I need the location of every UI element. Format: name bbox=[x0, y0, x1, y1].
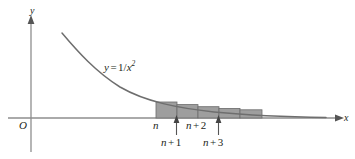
tick-label-n-plus-2-operator: + bbox=[192, 119, 201, 131]
tick-label-n-plus-2-number: 2 bbox=[201, 119, 207, 131]
tick-label-n-plus-1: n+1 bbox=[161, 137, 181, 148]
tick-label-n-plus-3-number: 3 bbox=[218, 136, 224, 148]
x-axis-label: x bbox=[344, 113, 348, 123]
equation-exponent: 2 bbox=[132, 59, 136, 68]
tick-label-n-plus-1-operator: + bbox=[167, 136, 176, 148]
tick-label-n: n bbox=[153, 120, 159, 131]
x-axis-arrowhead bbox=[335, 115, 344, 122]
integral-test-figure: y x O y=1/x2 n n+2 n+1 n+3 bbox=[0, 0, 355, 159]
tick-label-n-plus-3-base: n bbox=[203, 136, 209, 148]
y-axis-arrowhead bbox=[28, 15, 35, 24]
y-axis-label: y bbox=[30, 6, 34, 16]
y-axis bbox=[28, 15, 35, 152]
tick-label-n-plus-1-base: n bbox=[161, 136, 167, 148]
equation-numerator: 1/ bbox=[118, 61, 127, 73]
origin-label: O bbox=[19, 120, 27, 131]
equation-equals-sign: = bbox=[109, 61, 118, 73]
curve-equation-label: y=1/x2 bbox=[104, 62, 135, 73]
tick-label-n-plus-3-operator: + bbox=[209, 136, 218, 148]
tick-label-n-plus-2-base: n bbox=[186, 119, 192, 131]
tick-label-n-plus-3: n+3 bbox=[203, 137, 223, 148]
tick-label-n-plus-2: n+2 bbox=[186, 120, 206, 131]
riemann-rectangles bbox=[156, 102, 262, 118]
tick-label-n-plus-1-number: 1 bbox=[176, 136, 182, 148]
